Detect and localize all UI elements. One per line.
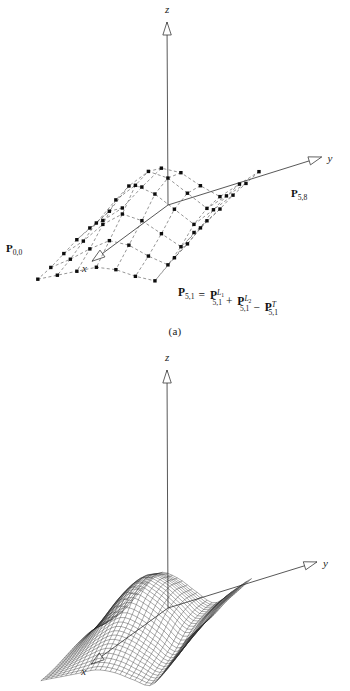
panel-a-x-axis-arrowhead (92, 250, 105, 261)
control-net-lines (38, 168, 259, 281)
panel-a-y-axis-arrowhead (308, 157, 322, 165)
control-point-marker (238, 182, 241, 185)
panel-b-svg: zyx (0, 350, 350, 691)
panel-a-control-net: zyxP0,0P5,8P5,1= PL15,1+ PL25,1− PT5,1 (… (0, 0, 350, 350)
control-point-marker (140, 185, 143, 188)
surface-v-line (85, 582, 147, 672)
panel-b-z-axis-label: z (164, 351, 170, 363)
control-point-marker (199, 184, 202, 187)
panel-b-surface: zyx (b) (0, 350, 350, 691)
control-point-marker (244, 182, 247, 185)
control-point-marker (114, 198, 117, 201)
panel-b-z-axis-arrowhead (163, 370, 171, 383)
control-net-col-line (194, 172, 259, 233)
control-point-marker (153, 279, 156, 282)
control-point-marker (134, 275, 137, 278)
control-point-marker (134, 184, 137, 187)
control-point-marker (160, 166, 163, 169)
control-point-marker (218, 207, 221, 210)
control-point-marker (166, 263, 169, 266)
formula-p51: P5,1= PL15,1+ PL25,1− PT5,1 (178, 286, 278, 317)
control-point-marker (82, 239, 85, 242)
control-net-row-line (103, 168, 259, 220)
control-point-marker (49, 266, 52, 269)
panel-a-x-axis-line (92, 205, 168, 261)
control-point-marker (147, 170, 150, 173)
control-point-marker (36, 277, 39, 280)
control-point-marker (205, 219, 208, 222)
control-point-marker (75, 270, 78, 273)
panel-b-y-axis-arrowhead (303, 562, 317, 570)
surface-v-line (130, 589, 192, 679)
surface-v-line (140, 596, 202, 682)
label-p-0-0: P0,0 (6, 242, 22, 257)
control-point-marker (95, 221, 98, 224)
control-point-marker (62, 252, 65, 255)
surface-wireframe (41, 572, 252, 685)
control-point-marker (101, 223, 104, 226)
control-net-col-line (155, 197, 220, 281)
control-point-marker (127, 184, 130, 187)
control-point-marker (121, 212, 124, 215)
control-point-marker (166, 176, 169, 179)
control-point-marker (127, 243, 130, 246)
surface-u-line (78, 589, 226, 642)
control-point-marker (179, 245, 182, 248)
control-point-marker (153, 192, 156, 195)
control-point-marker (186, 242, 189, 245)
control-point-marker (199, 226, 202, 229)
control-net-row-line (64, 209, 220, 254)
control-point-marker (101, 219, 104, 222)
control-point-marker (140, 219, 143, 222)
control-point-marker (147, 254, 150, 257)
control-points (36, 166, 261, 282)
control-point-marker (225, 194, 228, 197)
control-point-marker (108, 239, 111, 242)
control-point-marker (114, 268, 117, 271)
control-point-marker (121, 206, 124, 209)
control-point-marker (205, 207, 208, 210)
control-point-marker (257, 170, 260, 173)
control-point-marker (218, 195, 221, 198)
surface-v-line (66, 606, 128, 676)
control-point-marker (75, 238, 78, 241)
caption-a: (a) (0, 325, 350, 337)
control-point-marker (160, 232, 163, 235)
control-point-marker (231, 193, 234, 196)
control-point-marker (212, 208, 215, 211)
panel-b-y-axis-label: y (322, 557, 328, 569)
panel-a-svg: zyxP0,0P5,8P5,1= PL15,1+ PL25,1− PT5,1 (0, 0, 350, 350)
control-point-marker (192, 231, 195, 234)
panel-a-y-axis-label: y (327, 152, 333, 164)
surface-v-line (145, 600, 207, 685)
panel-a-x-axis-label: x (81, 262, 87, 274)
surface-v-line (95, 573, 157, 669)
control-point-marker (186, 192, 189, 195)
control-net-col-line (38, 220, 103, 279)
surface-v-line (75, 592, 137, 674)
control-point-marker (95, 266, 98, 269)
control-point-marker (69, 258, 72, 261)
panel-a-z-axis-label: z (164, 3, 170, 15)
control-point-marker (108, 210, 111, 213)
control-point-marker (56, 274, 59, 277)
control-point-marker (179, 171, 182, 174)
panel-a-z-axis-arrowhead (163, 22, 171, 35)
control-net-col-line (96, 168, 161, 267)
figure-page: zyxP0,0P5,8P5,1= PL15,1+ PL25,1− PT5,1 (… (0, 0, 350, 691)
panel-b-z-axis-line (167, 370, 168, 608)
label-p-5-8: P5,8 (291, 187, 307, 202)
control-point-marker (173, 256, 176, 259)
surface-u-line (80, 586, 228, 641)
control-point-marker (192, 223, 195, 226)
control-net-col-line (77, 186, 142, 271)
control-point-marker (88, 226, 91, 229)
control-point-marker (88, 247, 91, 250)
control-point-marker (173, 208, 176, 211)
